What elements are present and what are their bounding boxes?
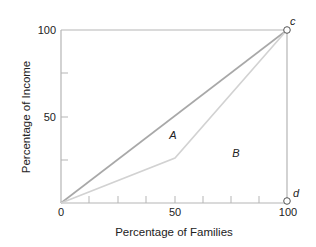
lorenz-chart: 100 50 0 50 100 Percentage of Families P… bbox=[0, 0, 316, 247]
x-tick-label-50: 50 bbox=[169, 206, 181, 218]
y-axis-title: Percentage of Income bbox=[20, 61, 32, 174]
point-d-label: d bbox=[293, 187, 300, 199]
x-ticks bbox=[89, 196, 259, 203]
point-c-marker bbox=[284, 27, 291, 34]
point-c-label: c bbox=[290, 15, 296, 27]
y-ticks bbox=[61, 73, 68, 160]
y-tick-label-100: 100 bbox=[38, 24, 56, 36]
area-a-label: A bbox=[168, 129, 176, 141]
equality-line bbox=[61, 30, 287, 203]
x-tick-label-0: 0 bbox=[58, 206, 64, 218]
x-tick-label-100: 100 bbox=[279, 206, 297, 218]
point-d-marker bbox=[284, 198, 291, 205]
y-tick-label-50: 50 bbox=[44, 111, 56, 123]
area-b-label: B bbox=[232, 147, 239, 159]
x-axis-title: Percentage of Families bbox=[115, 226, 233, 238]
